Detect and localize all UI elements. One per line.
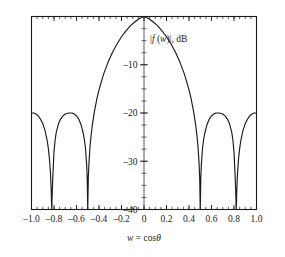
x-tick-label: –1.0 — [22, 214, 40, 224]
y-tick-label: –10 — [122, 60, 138, 70]
x-tick-label: –0.2 — [112, 214, 130, 224]
x-tick-label: 1.0 — [251, 214, 263, 224]
x-tick-label: 0.2 — [161, 214, 173, 224]
y-tick-label: –40 — [122, 205, 138, 215]
x-tick-label: 0.8 — [228, 214, 240, 224]
x-tick-label: –0.4 — [90, 214, 108, 224]
x-tick-label: –0.6 — [67, 214, 85, 224]
y-tick-label: –20 — [122, 108, 138, 118]
x-tick-label: 0.4 — [183, 214, 195, 224]
chart-figure: –1.0–0.8–0.6–0.4–0.200.20.40.60.81.0 –10… — [0, 0, 285, 257]
array-factor-plot: –1.0–0.8–0.6–0.4–0.200.20.40.60.81.0 –10… — [0, 0, 285, 257]
x-tick-label: –0.8 — [45, 214, 63, 224]
x-axis-title: w = cosθ — [127, 233, 161, 243]
y-tick-label: –30 — [122, 157, 138, 167]
x-tick-label: 0.6 — [206, 214, 218, 224]
y-axis-title: |f (w)|, dB — [150, 34, 187, 45]
x-tick-label: 0 — [142, 214, 147, 224]
